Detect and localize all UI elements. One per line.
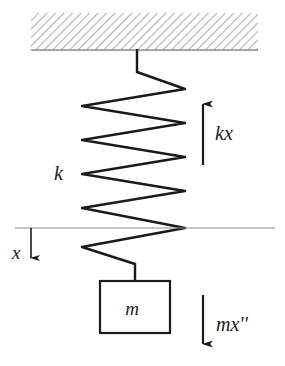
spring-coils: [82, 72, 185, 264]
ceiling-hatch-fill: [31, 13, 258, 50]
inertial-force-label: mx'': [216, 313, 249, 335]
spring-constant-label: k: [54, 162, 64, 184]
spring: [82, 50, 185, 281]
diagram-canvas: kx k m mx'' x: [0, 0, 285, 366]
spring-mass-diagram: kx k m mx'' x: [0, 0, 285, 366]
spring-force-label: kx: [215, 122, 233, 144]
displacement-label: x: [11, 242, 21, 263]
ceiling-support: [31, 13, 258, 50]
mass-label: m: [125, 298, 139, 319]
